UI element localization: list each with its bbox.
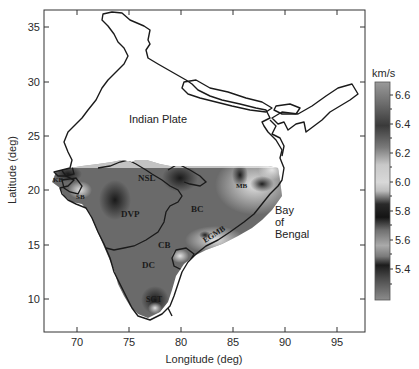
label-bay: Bay	[275, 204, 294, 216]
y-axis-title: Latitude (deg)	[6, 136, 18, 204]
x-tick-90: 90	[279, 336, 291, 348]
label-of: of	[275, 216, 285, 228]
region-dvp: DVP	[121, 209, 140, 219]
region-sb: SB	[76, 193, 85, 201]
y-tick-20: 20	[28, 184, 40, 196]
x-axis-title: Longitude (deg)	[165, 353, 242, 365]
cb-tick-6.2: 6.2	[395, 147, 410, 159]
cb-tick-6.0: 6.0	[395, 176, 410, 188]
label-indian-plate: Indian Plate	[129, 113, 187, 125]
x-tick-80: 80	[175, 336, 187, 348]
x-tick-labels: 70 75 80 85 90 95	[71, 336, 343, 348]
y-tick-25: 25	[28, 130, 40, 142]
cb-tick-5.8: 5.8	[395, 205, 410, 217]
region-bc: BC	[191, 204, 204, 214]
region-dc: DC	[142, 260, 155, 270]
x-tick-75: 75	[123, 336, 135, 348]
cb-tick-6.6: 6.6	[395, 89, 410, 101]
label-bengal: Bengal	[275, 228, 309, 240]
y-tick-15: 15	[28, 239, 40, 251]
y-tick-35: 35	[28, 21, 40, 33]
colorbar: km/s 6.6 6.4 6.2 6.0 5.8 5.6 5.4	[372, 67, 410, 300]
colorbar-scale	[375, 82, 390, 300]
colorbar-unit: km/s	[372, 67, 396, 79]
region-sgt: SGT	[146, 295, 163, 304]
region-nsl: NSL	[138, 173, 156, 183]
y-tick-10: 10	[28, 293, 40, 305]
x-tick-95: 95	[331, 336, 343, 348]
y-tick-30: 30	[28, 76, 40, 88]
cb-tick-5.4: 5.4	[395, 263, 410, 275]
x-tick-85: 85	[227, 336, 239, 348]
velocity-map-figure: 70 75 80 85 90 95 10 15 20 25 30 35 Long…	[0, 0, 419, 369]
y-tick-labels: 10 15 20 25 30 35	[28, 21, 40, 305]
region-mb: MB	[236, 182, 248, 190]
x-tick-70: 70	[71, 336, 83, 348]
cb-tick-5.6: 5.6	[395, 234, 410, 246]
cb-tick-6.4: 6.4	[395, 118, 410, 130]
region-kb: KB	[53, 176, 63, 184]
region-cb: CB	[158, 240, 171, 250]
